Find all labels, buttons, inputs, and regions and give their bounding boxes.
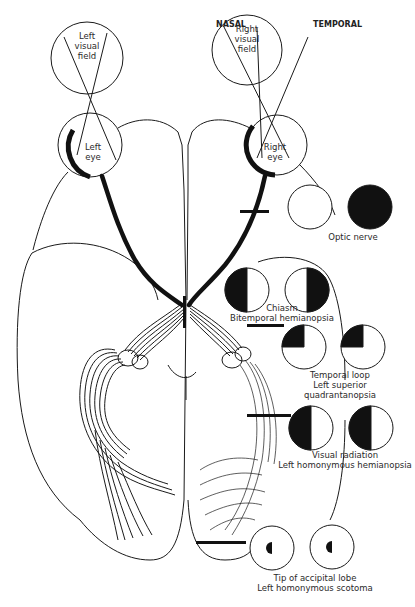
right-field-ray: [257, 37, 308, 158]
lesion-marker-chiasm: [247, 324, 284, 327]
right-lgn-lobe: [235, 347, 251, 361]
left-eye-label: Left eye: [82, 142, 104, 162]
visual-radiation-right-field: [349, 406, 393, 450]
occipital-tip-right-field: [310, 525, 354, 569]
visual-radiation-left-field: [289, 406, 333, 450]
chiasm-bar: [183, 296, 186, 328]
right-optic-radiation: [200, 360, 276, 535]
right-eye-label: Right eye: [262, 142, 288, 162]
temporal-loop-left-field: [282, 325, 326, 369]
midbrain-outline: [168, 365, 196, 378]
left-lgn-lobe: [132, 355, 148, 369]
left-frontal-lobe-outline: [118, 120, 186, 300]
left-frontal-lateral: [33, 172, 68, 250]
optic-nerve-right-field: [348, 185, 392, 229]
optic-nerve-left-field: [288, 185, 332, 229]
left-temporal-lobe-top: [32, 243, 158, 300]
lesion-marker-optic-nerve: [240, 210, 269, 213]
lesion-marker-visual-radiation: [247, 414, 291, 417]
visual-pathway-diagram: [0, 0, 415, 607]
lesion-marker-occipital-tip: [196, 541, 246, 544]
temporal-loop-right-field: [341, 325, 385, 369]
left-optic-radiation: [80, 349, 175, 540]
chiasm-label: Chiasm Bitemporal hemianopsia: [222, 303, 342, 323]
visual-radiation-label: Visual radiation Left homonymous hemiano…: [275, 450, 415, 470]
left-visual-field-label: Left visual field: [72, 31, 102, 61]
temporal-label: TEMPORAL: [313, 20, 362, 29]
right-occipital-tip-outline: [188, 500, 255, 560]
left-optic-nerve: [102, 176, 182, 305]
left-lgn: [118, 350, 138, 366]
left-temporal-occipital-outline: [17, 253, 186, 560]
right-visual-field-label: Right visual field: [232, 24, 262, 54]
occipital-tip-left-field: [250, 526, 294, 570]
temporal-loop-label: Temporal loop Left superior quadrantanop…: [295, 370, 385, 400]
optic-nerve-label: Optic nerve: [318, 232, 388, 242]
occipital-tip-label: Tip of accipital lobe Left homonymous sc…: [255, 573, 375, 593]
